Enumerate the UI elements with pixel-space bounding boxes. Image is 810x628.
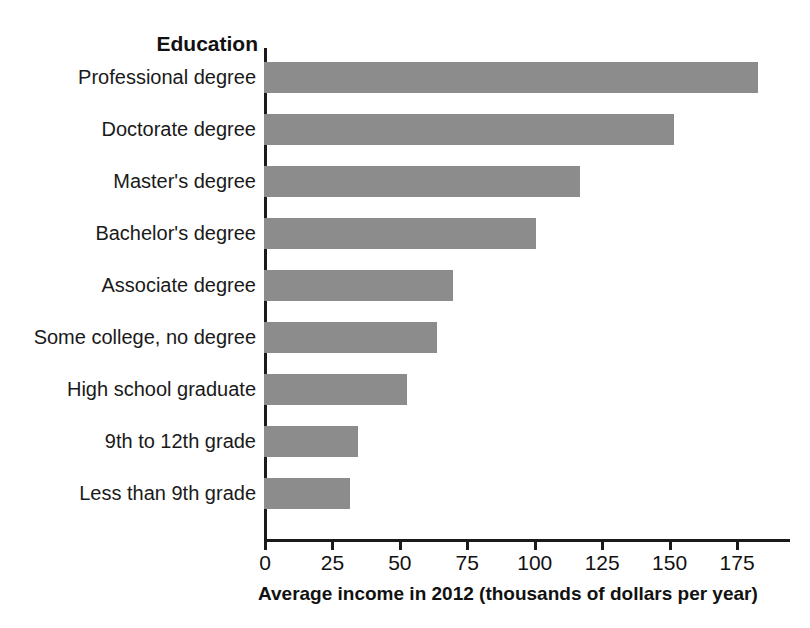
x-axis-tick xyxy=(601,539,604,550)
x-axis-tick-label: 125 xyxy=(585,551,620,575)
category-label: Doctorate degree xyxy=(101,114,264,145)
category-label: 9th to 12th grade xyxy=(105,426,264,457)
x-axis-tick xyxy=(736,539,739,550)
x-axis-tick-label: 75 xyxy=(456,551,479,575)
plot-area: Professional degreeDoctorate degreeMaste… xyxy=(264,62,790,540)
bar-row: High school graduate xyxy=(264,374,790,426)
bar xyxy=(264,166,580,197)
bar-row: Bachelor's degree xyxy=(264,218,790,270)
bar xyxy=(264,114,674,145)
bar-row: Doctorate degree xyxy=(264,114,790,166)
x-axis-tick xyxy=(331,539,334,550)
bar xyxy=(264,218,536,249)
category-axis-title: Education xyxy=(0,32,258,56)
x-axis-tick-label: 0 xyxy=(259,551,271,575)
x-axis-tick xyxy=(466,539,469,550)
x-axis-tick-label: 100 xyxy=(517,551,552,575)
bar xyxy=(264,426,358,457)
bar xyxy=(264,478,350,509)
x-axis-tick-label: 150 xyxy=(652,551,687,575)
x-axis-tick xyxy=(399,539,402,550)
bar-chart: Education Professional degreeDoctorate d… xyxy=(0,0,810,628)
category-label: Some college, no degree xyxy=(34,322,264,353)
category-label: Bachelor's degree xyxy=(95,218,264,249)
bar-row: Professional degree xyxy=(264,62,790,114)
x-axis-tick xyxy=(264,539,267,550)
x-axis-tick xyxy=(534,539,537,550)
x-axis-tick-label: 25 xyxy=(321,551,344,575)
bar xyxy=(264,322,437,353)
bar-row: Less than 9th grade xyxy=(264,478,790,530)
category-label: Professional degree xyxy=(78,62,264,93)
bar-row: Some college, no degree xyxy=(264,322,790,374)
category-label: Less than 9th grade xyxy=(79,478,264,509)
bar xyxy=(264,270,453,301)
bar-row: Associate degree xyxy=(264,270,790,322)
category-label: Associate degree xyxy=(101,270,264,301)
x-axis-tick-label: 50 xyxy=(388,551,411,575)
bar-row: 9th to 12th grade xyxy=(264,426,790,478)
bar-row: Master's degree xyxy=(264,166,790,218)
x-axis-title: Average income in 2012 (thousands of dol… xyxy=(258,583,758,605)
x-axis-tick-label: 175 xyxy=(720,551,755,575)
bar xyxy=(264,62,758,93)
x-axis-tick xyxy=(669,539,672,550)
bar xyxy=(264,374,407,405)
category-label: Master's degree xyxy=(113,166,264,197)
category-label: High school graduate xyxy=(67,374,264,405)
